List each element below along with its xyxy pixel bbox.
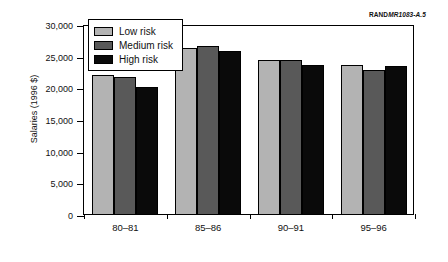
bar-85-86-medium[interactable] [197,46,219,214]
y-tick-label-1: 5,000 [50,179,73,189]
x-tick-2 [250,214,251,219]
legend-swatch-high-icon [94,55,113,64]
y-tick-label-0: 0 [68,211,73,221]
x-tick-0 [84,214,85,219]
y-tick-6: 30,000 [77,26,84,27]
credit-line: RANDMR1083-A.5 [369,11,426,18]
y-axis-title: Salaries (1996 $) [29,29,39,189]
y-tick-label-2: 10,000 [45,148,73,158]
y-tick-2: 10,000 [77,153,84,154]
y-tick-5: 25,000 [77,58,84,59]
legend-item-low[interactable]: Low risk [94,24,173,38]
x-tick-label-4: 95–96 [334,222,414,233]
x-tick-1 [167,214,168,219]
x-tick-label-2: 85–86 [168,222,248,233]
y-tick-3: 15,000 [77,121,84,122]
legend-label: Low risk [119,26,156,37]
bar-90-91-low[interactable] [258,60,280,214]
chart-legend: Low riskMedium riskHigh risk [88,19,183,71]
y-tick-label-4: 20,000 [45,84,73,94]
y-tick-label-6: 30,000 [45,21,73,31]
y-tick-0: 0 [77,216,84,217]
credit-publisher: RAND [369,11,388,18]
bar-80-81-high[interactable] [136,87,158,214]
y-tick-label-5: 25,000 [45,53,73,63]
bar-90-91-high[interactable] [302,65,324,214]
legend-label: High risk [119,54,158,65]
credit-code: MR1083-A.5 [388,11,426,18]
x-tick-label-3: 90–91 [251,222,331,233]
bar-80-81-low[interactable] [92,75,114,214]
bar-85-86-low[interactable] [175,48,197,214]
bar-95-96-medium[interactable] [363,70,385,214]
chart-figure: RANDMR1083-A.5 Salaries (1996 $) 05,0001… [0,0,448,262]
bar-80-81-medium[interactable] [114,77,136,214]
bar-85-86-high[interactable] [219,51,241,214]
bar-group-4 [332,26,415,214]
bar-95-96-low[interactable] [341,65,363,214]
y-tick-1: 5,000 [77,184,84,185]
x-tick-label-1: 80–81 [85,222,165,233]
bar-group-3 [250,26,333,214]
x-tick-3 [332,214,333,219]
legend-item-high[interactable]: High risk [94,52,173,66]
y-tick-label-3: 15,000 [45,116,73,126]
bar-95-96-high[interactable] [385,66,407,214]
legend-label: Medium risk [119,40,173,51]
y-tick-4: 20,000 [77,89,84,90]
bar-90-91-medium[interactable] [280,60,302,214]
legend-item-medium[interactable]: Medium risk [94,38,173,52]
legend-swatch-medium-icon [94,41,113,50]
legend-swatch-low-icon [94,27,113,36]
x-tick-4 [415,214,416,219]
